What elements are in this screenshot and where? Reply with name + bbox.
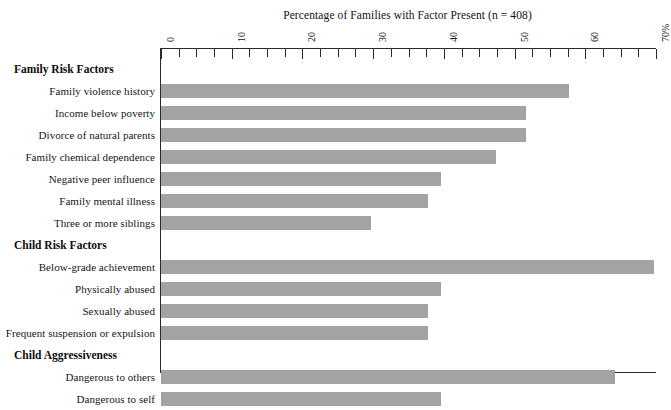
x-axis-tick — [302, 49, 303, 59]
bar-row: Family mental illness — [0, 190, 671, 212]
bar-row: Dangerous to self — [0, 388, 671, 410]
x-tick-label-20: 20 — [306, 32, 317, 42]
bar-category-label: Income below poverty — [0, 102, 155, 124]
x-axis-tick — [603, 49, 604, 57]
x-axis-tick — [249, 49, 250, 57]
bar — [161, 128, 526, 142]
x-axis-tick — [355, 49, 356, 57]
bar-category-label: Negative peer influence — [0, 168, 155, 190]
x-axis-tick — [320, 49, 321, 57]
x-axis-tick — [179, 49, 180, 57]
bar-category-label: Three or more siblings — [0, 212, 155, 234]
bar-category-label: Family mental illness — [0, 190, 155, 212]
bar-category-label: Divorce of natural parents — [0, 124, 155, 146]
bar — [161, 326, 428, 340]
bar — [161, 84, 569, 98]
group-header-label: Family Risk Factors — [14, 58, 114, 80]
x-axis-tick — [532, 49, 533, 57]
group-header-label: Child Risk Factors — [14, 234, 107, 256]
x-axis-tick — [285, 49, 286, 57]
bar-row: Negative peer influence — [0, 168, 671, 190]
bar-category-label: Dangerous to self — [0, 388, 155, 410]
bar — [161, 282, 441, 296]
x-axis-tick — [232, 49, 233, 59]
x-tick-label-30: 30 — [377, 32, 388, 42]
x-axis-tick — [568, 49, 569, 57]
bar — [161, 216, 371, 230]
bar-row: Dangerous to others — [0, 366, 671, 388]
x-axis-tick — [444, 49, 445, 59]
x-axis-tick — [373, 49, 374, 59]
x-axis-tick — [426, 49, 427, 57]
bar — [161, 304, 428, 318]
x-axis-tick — [391, 49, 392, 57]
bar — [161, 172, 441, 186]
x-tick-label-0: 0 — [165, 37, 176, 42]
bar-category-label: Family violence history — [0, 80, 155, 102]
bar — [161, 260, 654, 274]
bar-row: Three or more siblings — [0, 212, 671, 234]
x-axis-tick — [515, 49, 516, 59]
x-axis-tick — [497, 49, 498, 57]
x-tick-label-70pct: 70% — [660, 24, 671, 42]
x-tick-label-10: 10 — [236, 32, 247, 42]
x-axis-tick — [638, 49, 639, 57]
bar-row: Divorce of natural parents — [0, 124, 671, 146]
bar — [161, 106, 526, 120]
bar-category-label: Physically abused — [0, 278, 155, 300]
bar-row: Below-grade achievement — [0, 256, 671, 278]
x-axis-tick — [338, 49, 339, 57]
axis-top-line — [160, 48, 656, 49]
x-axis-tick — [550, 49, 551, 57]
bar — [161, 150, 496, 164]
bar-row: Family violence history — [0, 80, 671, 102]
bar — [161, 392, 441, 406]
group-header-family-risk-factors: Family Risk Factors — [0, 58, 200, 80]
bar-row: Family chemical dependence — [0, 146, 671, 168]
bar-category-label: Frequent suspension or expulsion — [0, 322, 155, 344]
bar-category-label: Sexually abused — [0, 300, 155, 322]
bar — [161, 370, 615, 384]
x-tick-label-40: 40 — [448, 32, 459, 42]
bar-category-label: Dangerous to others — [0, 366, 155, 388]
bar — [161, 194, 428, 208]
chart-title: Percentage of Families with Factor Prese… — [160, 9, 655, 21]
bar-category-label: Family chemical dependence — [0, 146, 155, 168]
x-axis-tick — [196, 49, 197, 57]
x-tick-label-50: 50 — [519, 32, 530, 42]
bar-row: Physically abused — [0, 278, 671, 300]
x-axis-tick — [479, 49, 480, 57]
group-header-child-risk-factors: Child Risk Factors — [0, 234, 200, 256]
bar-row: Sexually abused — [0, 300, 671, 322]
x-axis-tick — [656, 49, 657, 59]
x-axis-tick — [585, 49, 586, 59]
x-axis-tick — [621, 49, 622, 57]
bar-row: Frequent suspension or expulsion — [0, 322, 671, 344]
group-header-label: Child Aggressiveness — [14, 344, 117, 366]
x-axis-tick — [462, 49, 463, 57]
bar-row: Income below poverty — [0, 102, 671, 124]
x-axis-tick — [214, 49, 215, 57]
x-axis-tick — [267, 49, 268, 57]
x-axis-tick — [409, 49, 410, 57]
x-tick-label-60: 60 — [589, 32, 600, 42]
group-header-child-aggressiveness: Child Aggressiveness — [0, 344, 200, 366]
bar-category-label: Below-grade achievement — [0, 256, 155, 278]
